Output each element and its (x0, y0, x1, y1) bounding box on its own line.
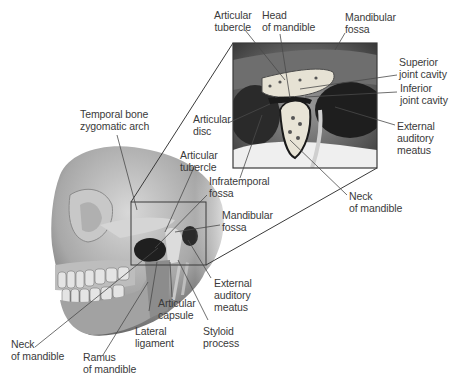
label-infratemporal-fossa: Infratemporal fossa (209, 175, 270, 199)
tmj-diagram: Articular tubercle Head of mandible Mand… (0, 0, 460, 380)
label-mandibular-fossa-inset: Mandibular fossa (345, 11, 396, 35)
label-head-of-mandible: Head of mandible (262, 9, 315, 33)
skull-illustration (51, 146, 235, 335)
label-styloid-process: Styloid process (203, 325, 239, 349)
label-lateral-ligament: Lateral ligament (135, 325, 174, 349)
label-ramus-of-mandible: Ramus of mandible (83, 351, 136, 375)
label-external-auditory-meatus-skull: External auditory meatus (214, 277, 252, 313)
label-neck-of-mandible-inset: Neck of mandible (349, 190, 402, 214)
label-external-auditory-meatus-inset: External auditory meatus (397, 120, 435, 156)
label-inferior-joint-cavity: Inferior joint cavity (400, 82, 448, 106)
label-superior-joint-cavity: Superior joint cavity (399, 56, 447, 80)
inset-illustration (230, 43, 385, 168)
label-articular-disc: Articular disc (193, 113, 231, 137)
label-articular-capsule: Articular capsule (158, 297, 196, 321)
label-mandibular-fossa-skull: Mandibular fossa (222, 209, 273, 233)
label-articular-tubercle-skull: Articular tubercle (180, 149, 218, 173)
label-neck-of-mandible-skull: Neck of mandible (11, 338, 64, 362)
label-articular-tubercle-inset: Articular tubercle (214, 9, 252, 33)
label-temporal-bone-zygomatic-arch: Temporal bone zygomatic arch (80, 108, 149, 132)
